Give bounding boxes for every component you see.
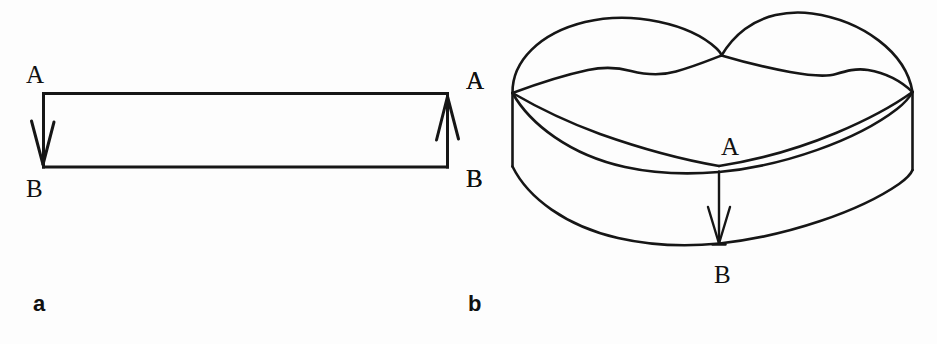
mobius-inner-rim-left	[513, 56, 722, 94]
panel-b-mobius-band	[512, 13, 912, 246]
mobius-outer-top-rim-right	[722, 13, 913, 92]
mobius-inner-rim-right	[722, 56, 913, 93]
label-b-left-bottom: B	[466, 166, 483, 191]
mobius-front-band-upper-edge	[513, 92, 913, 173]
label-a-left-bottom: B	[26, 176, 43, 201]
label-b-center-top: A	[721, 134, 739, 159]
panel-a-rectangle	[44, 94, 448, 168]
label-b-left-top: A	[466, 68, 484, 93]
figure-container: A B A B A B A B a b	[0, 0, 937, 344]
label-b-center-bottom: B	[714, 262, 731, 287]
mobius-front-band-lower-edge	[513, 167, 913, 246]
panel-caption-b: b	[468, 293, 481, 315]
panel-caption-a: a	[33, 293, 45, 315]
mobius-right-twist-seam	[719, 92, 913, 166]
label-a-left-top: A	[26, 62, 44, 87]
mobius-center-arrow-down	[708, 172, 730, 245]
mobius-center-arrowhead-left	[708, 207, 719, 244]
mobius-center-arrowhead-right	[719, 207, 730, 244]
